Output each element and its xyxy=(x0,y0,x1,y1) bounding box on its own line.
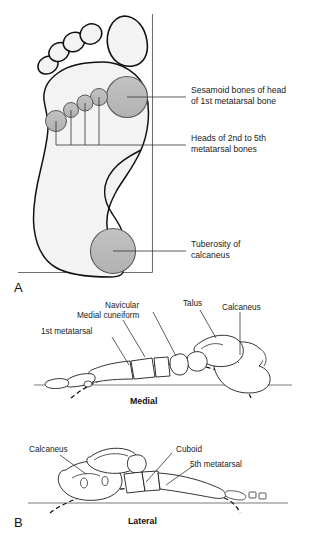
distal-phalanx-5-lateral xyxy=(259,493,266,499)
label-fifth-metatarsal: 5th metatarsal xyxy=(190,460,242,469)
label-sesamoid-line1: Sesamoid bones of head xyxy=(191,85,286,95)
peroneal-tubercle xyxy=(81,478,88,488)
toe-1-hallux-pad xyxy=(107,16,147,66)
panel-a: Sesamoid bones of head of 1st metatarsal… xyxy=(14,14,286,295)
calcaneal-facet xyxy=(102,477,108,486)
label-sesamoid-line2: of 1st metatarsal bone xyxy=(191,96,276,106)
distal-phalanx-1-medial xyxy=(45,379,69,389)
label-tuberosity-line1: Tuberosity of xyxy=(191,239,241,249)
proximal-phalanx-5-lateral xyxy=(225,491,246,500)
label-talus: Talus xyxy=(183,299,202,308)
fifth-metatarsal-bone xyxy=(158,473,226,498)
label-cuboid: Cuboid xyxy=(176,445,202,454)
talus-head-neck xyxy=(187,352,207,372)
talus-neck-lateral xyxy=(127,455,146,473)
medial-view: Medial cuneiform Navicular Talus Calcane… xyxy=(34,299,292,406)
tarsal-block-lateral xyxy=(142,471,160,491)
middle-phalanx-5-lateral xyxy=(249,492,256,498)
label-calcaneus-lateral: Calcaneus xyxy=(29,445,68,454)
panel-letter-b: B xyxy=(14,515,23,530)
label-medial-cuneiform: Medial cuneiform xyxy=(77,311,140,320)
panel-letter-a: A xyxy=(14,280,23,295)
intermediate-cuneiform-bone xyxy=(154,357,170,377)
label-metatarsal-heads-line2: metatarsal bones xyxy=(191,144,257,154)
caption-lateral: Lateral xyxy=(128,516,157,526)
label-metatarsal-heads-line1: Heads of 2nd to 5th xyxy=(191,133,266,143)
label-navicular: Navicular xyxy=(105,301,139,310)
label-calcaneus-medial: Calcaneus xyxy=(222,303,261,312)
label-first-metatarsal: 1st metatarsal xyxy=(41,327,93,336)
sesamoid-bone-medial xyxy=(84,381,92,387)
anatomy-figure: Sesamoid bones of head of 1st metatarsal… xyxy=(0,0,314,545)
cuboid-bone xyxy=(124,472,145,493)
navicular-bone xyxy=(170,354,188,375)
lateral-view: Calcaneus Cuboid 5th metatarsal Lateral … xyxy=(14,445,288,530)
label-tuberosity-line2: calcaneus xyxy=(191,250,230,260)
figure-canvas: Sesamoid bones of head of 1st metatarsal… xyxy=(0,0,314,545)
medial-cuneiform-bone xyxy=(131,358,155,379)
caption-medial: Medial xyxy=(130,396,157,406)
